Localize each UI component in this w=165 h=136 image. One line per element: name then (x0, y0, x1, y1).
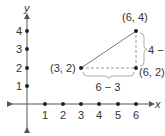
coordinate-plane: x y 1 2 3 4 5 6 1 2 3 4 (3, 2) (6, 4) (6… (0, 0, 165, 136)
point-3-2 (79, 66, 83, 70)
run-annotation: 6 − 3 (96, 81, 121, 93)
x-tick-label: 3 (78, 109, 84, 121)
rise-annotation: 4 − 2 (148, 44, 165, 56)
point-label: (6, 4) (122, 11, 148, 23)
point-6-4 (134, 29, 138, 33)
y-tick-label: 2 (16, 62, 22, 74)
x-tick-label: 2 (60, 109, 66, 121)
point-6-2 (134, 66, 138, 70)
x-tick-label: 4 (96, 109, 102, 121)
hypotenuse-segment (81, 31, 136, 68)
x-tick-label: 1 (42, 109, 48, 121)
run-brace-icon (83, 72, 134, 79)
x-tick-label: 6 (133, 109, 139, 121)
rise-brace-icon (140, 33, 147, 66)
point-label: (6, 2) (139, 66, 165, 78)
y-tick-label: 4 (16, 25, 22, 37)
y-tick-label: 1 (16, 80, 22, 92)
x-tick-label: 5 (115, 109, 121, 121)
x-axis-label: x (154, 98, 161, 110)
x-ticks: 1 2 3 4 5 6 (42, 102, 139, 121)
y-axis-label: y (23, 2, 31, 14)
y-tick-label: 3 (16, 43, 22, 55)
point-label: (3, 2) (50, 62, 76, 74)
